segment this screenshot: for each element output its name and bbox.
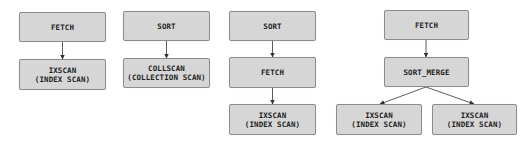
node-sublabel: (INDEX SCAN) xyxy=(35,75,90,84)
node-ixscan: IXSCAN (INDEX SCAN) xyxy=(19,59,106,90)
edge-p4-sortmerge-to-ixscan-left xyxy=(380,87,426,104)
node-fetch: FETCH xyxy=(384,10,469,40)
node-label: SORT_MERGE xyxy=(403,68,449,77)
node-sublabel: (INDEX SCAN) xyxy=(447,120,502,129)
node-label: IXSCAN xyxy=(461,111,489,120)
node-sublabel: (INDEX SCAN) xyxy=(245,120,300,129)
node-label: SORT xyxy=(263,22,281,31)
node-sort-merge: SORT_MERGE xyxy=(384,57,469,87)
node-label: FETCH xyxy=(51,23,74,32)
node-label: FETCH xyxy=(261,68,284,77)
node-ixscan: IXSCAN (INDEX SCAN) xyxy=(229,104,316,135)
node-ixscan-left: IXSCAN (INDEX SCAN) xyxy=(336,104,422,135)
node-label: IXSCAN xyxy=(49,66,77,75)
node-fetch: FETCH xyxy=(229,57,316,88)
node-label: IXSCAN xyxy=(259,111,287,120)
node-fetch: FETCH xyxy=(19,12,106,42)
node-label: IXSCAN xyxy=(365,111,393,120)
node-label: COLLSCAN xyxy=(148,64,185,73)
node-sublabel: (INDEX SCAN) xyxy=(351,120,406,129)
node-ixscan-right: IXSCAN (INDEX SCAN) xyxy=(432,104,517,135)
edge-p4-sortmerge-to-ixscan-right xyxy=(426,87,474,104)
node-sort: SORT xyxy=(123,11,210,41)
node-collscan: COLLSCAN (COLLECTION SCAN) xyxy=(123,58,210,88)
node-sublabel: (COLLECTION SCAN) xyxy=(127,73,205,82)
node-label: FETCH xyxy=(415,21,438,30)
node-sort: SORT xyxy=(229,11,316,41)
node-label: SORT xyxy=(157,22,175,31)
